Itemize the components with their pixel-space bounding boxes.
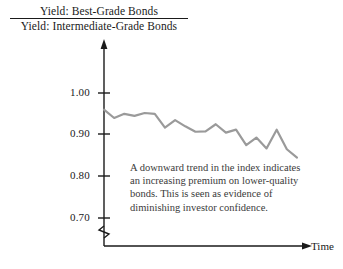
chart-figure: Yield: Best-Grade Bonds Yield: Intermedi… [0, 0, 343, 269]
chart-annotation-text: A downward trend in the index indicates … [130, 161, 306, 214]
y-tick-label-4: 0.70 [50, 211, 90, 223]
data-series-line [104, 110, 297, 158]
y-tick-label-2: 0.90 [50, 127, 90, 139]
y-tick-label-1: 1.00 [50, 86, 90, 98]
x-axis-label: Time [311, 240, 334, 252]
y-axis-arrow-icon [101, 39, 108, 49]
y-tick-label-3: 0.80 [50, 169, 90, 181]
